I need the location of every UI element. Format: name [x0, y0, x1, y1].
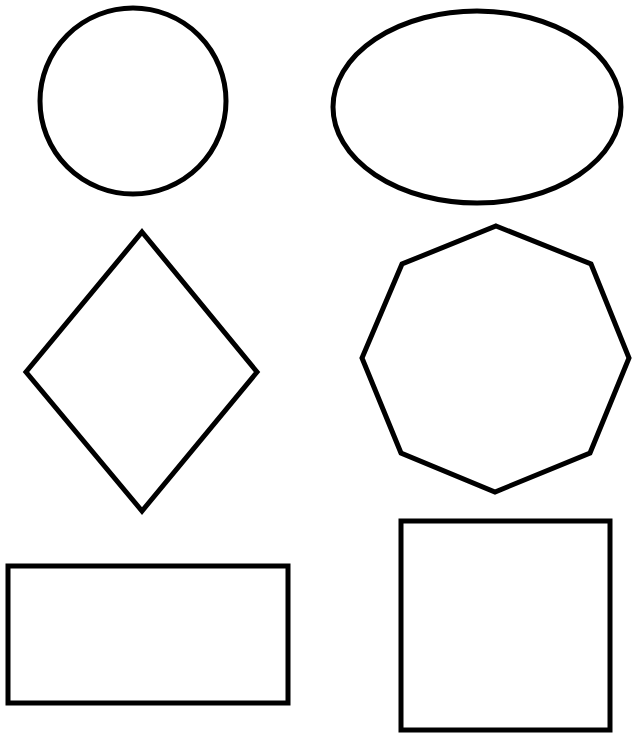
- oval-shape: [333, 11, 621, 203]
- diamond-shape: [26, 232, 257, 511]
- square-shape: [401, 521, 610, 730]
- octagon-shape: [362, 226, 629, 492]
- circle-shape: [40, 8, 226, 194]
- rectangle-shape: [8, 566, 288, 703]
- shapes-worksheet: [0, 0, 636, 753]
